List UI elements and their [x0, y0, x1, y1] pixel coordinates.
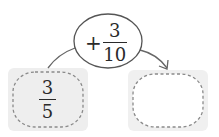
start-fraction: 3 5	[39, 79, 56, 121]
operation-fraction: 3 10	[103, 22, 127, 64]
operation-denominator: 10	[103, 46, 126, 64]
connector-arc-left	[48, 48, 75, 68]
start-numerator: 3	[42, 79, 53, 97]
operation-numerator: 3	[109, 22, 120, 40]
start-denominator: 5	[42, 103, 53, 121]
result-answer-slot[interactable]	[140, 80, 196, 120]
fraction-diagram: + 3 10 3 5	[0, 0, 219, 137]
fraction-bar	[39, 99, 56, 100]
connector-arrow-right	[140, 50, 167, 68]
fraction-bar	[103, 42, 127, 43]
plus-sign: +	[85, 33, 102, 53]
operation-label: + 3 10	[85, 22, 127, 64]
